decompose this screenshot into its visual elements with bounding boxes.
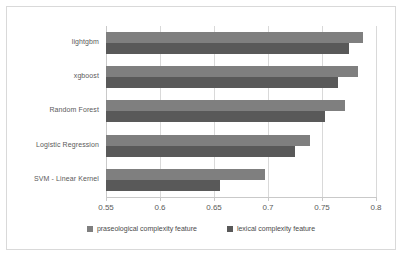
legend-item[interactable]: lexical complexity feature (227, 225, 315, 232)
plot-area: lightgbmxgboostRandom ForestLogistic Reg… (106, 26, 376, 197)
chart-legend: praseological complexity featurelexical … (7, 225, 395, 232)
bar (106, 32, 363, 43)
category-label: Random Forest (49, 106, 99, 113)
legend-item[interactable]: praseological complexity feature (87, 225, 197, 232)
x-tick-mark (376, 197, 377, 201)
x-tick-label: 0.75 (314, 203, 330, 212)
bar (106, 43, 349, 54)
legend-swatch-icon (87, 226, 93, 232)
x-tick-label: 0.65 (206, 203, 222, 212)
category-label: SVM - Linear Kernel (34, 175, 99, 182)
category-label: lightgbm (72, 38, 99, 45)
bar (106, 66, 358, 77)
x-tick-mark (214, 197, 215, 201)
bar (106, 180, 220, 191)
legend-label: praseological complexity feature (97, 225, 197, 232)
bar (106, 146, 295, 157)
x-tick-mark (268, 197, 269, 201)
x-tick-label: 0.8 (370, 203, 381, 212)
bar-group: Logistic Regression (106, 129, 376, 163)
x-tick-mark (106, 197, 107, 201)
x-tick-label: 0.7 (262, 203, 273, 212)
chart-frame: lightgbmxgboostRandom ForestLogistic Reg… (6, 6, 396, 250)
bar (106, 111, 325, 122)
legend-label: lexical complexity feature (237, 225, 315, 232)
category-label: Logistic Regression (36, 141, 99, 148)
x-tick-mark (160, 197, 161, 201)
bar-group: lightgbm (106, 26, 376, 60)
bar-group: Random Forest (106, 94, 376, 128)
category-label: xgboost (74, 72, 99, 79)
x-axis-line (106, 197, 377, 198)
legend-swatch-icon (227, 226, 233, 232)
bar (106, 169, 265, 180)
bar-group: SVM - Linear Kernel (106, 163, 376, 197)
bar-group: xgboost (106, 60, 376, 94)
bar (106, 77, 338, 88)
x-tick-label: 0.6 (154, 203, 165, 212)
bar (106, 100, 345, 111)
bar (106, 135, 310, 146)
x-tick-label: 0.55 (98, 203, 114, 212)
gridline-0.8 (376, 26, 377, 197)
x-tick-mark (322, 197, 323, 201)
